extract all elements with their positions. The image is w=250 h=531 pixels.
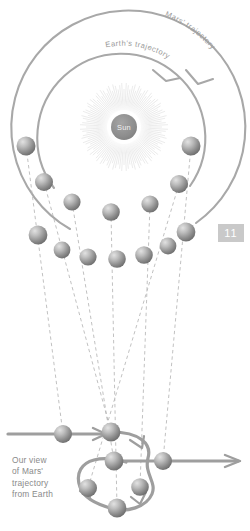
mars-orbit-label: Mars' trajectory [164, 9, 217, 51]
observed-position-3 [105, 452, 124, 471]
sun-label: Sun [117, 123, 131, 132]
earth-orbit-label: Earth's trajectory [105, 39, 172, 61]
diagram-canvas: Earth's trajectory Mars' trajectory Sun [0, 0, 250, 531]
caption-line-3: trajectory [12, 478, 84, 489]
observed-path-caption: Our view of Mars' trajectory from Earth [12, 455, 84, 501]
retrograde-motion-diagram: Earth's trajectory Mars' trajectory Sun … [0, 0, 250, 531]
mars-position-7 [177, 223, 196, 242]
sightline-3 [72, 202, 114, 461]
caption-line-4: from Earth [12, 489, 84, 500]
observed-position-5 [131, 478, 149, 496]
earth-position-4 [102, 203, 120, 221]
caption-line-2: of Mars' [12, 466, 84, 477]
page-number-badge: 11 [218, 224, 244, 242]
earth-orbit-arrowhead [153, 70, 180, 81]
mars-position-6 [160, 238, 177, 255]
caption-line-1: Our view [12, 455, 84, 466]
mars-position-1 [29, 226, 48, 245]
earth-position-2 [35, 173, 53, 191]
mars-position-3 [79, 248, 96, 265]
observed-position-6 [108, 499, 127, 518]
earth-position-1 [17, 137, 36, 156]
mars-position-5 [135, 246, 153, 264]
observed-position-7 [154, 452, 172, 470]
mars-position-4 [108, 250, 126, 268]
mars-position-2 [54, 242, 71, 259]
observed-position-1 [54, 425, 72, 443]
earth-position-3 [63, 193, 80, 210]
mars-orbit-arrowhead [186, 70, 213, 84]
earth-position-7 [182, 137, 201, 156]
observed-position-2 [102, 423, 121, 442]
earth-position-5 [141, 195, 158, 212]
earth-position-6 [170, 175, 188, 193]
sightline-7 [163, 146, 191, 461]
sightline-2 [44, 182, 111, 432]
